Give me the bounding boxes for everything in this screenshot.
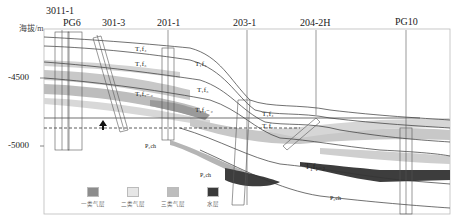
formation-p2ch: P₂ch [145, 143, 156, 149]
well-203-1: 203-1 [233, 17, 256, 28]
formation-f3: T₁f₃ [135, 60, 147, 68]
formation-f4: T₁f₄ [135, 45, 147, 53]
formation-f3-b: T₁f₃ [197, 86, 209, 94]
well-3011-1: 3011-1 [46, 5, 74, 16]
formation-f4-b: T₁f₄ [195, 60, 207, 68]
well-pg10: PG10 [395, 16, 418, 27]
legend-item-class1-gas: 一类气层 [78, 187, 108, 208]
legend-item-class3-gas: 三类气层 [158, 187, 188, 208]
y-tick-5000: -5000 [8, 140, 29, 150]
legend-swatch [87, 187, 99, 197]
legend-swatch [167, 187, 179, 197]
well-pg6: PG6 [63, 17, 81, 28]
formation-f12-c: T₁f₁₋₂ [305, 162, 325, 171]
formation-p2ch-c: P₂ch [330, 195, 341, 201]
legend-swatch [127, 187, 139, 197]
y-tick-4500: -4500 [8, 72, 29, 82]
formation-p2ch-b: P₂ch [200, 172, 211, 178]
well-204-2h: 204-2H [300, 17, 331, 28]
formation-f12: T₁f₁₋₂ [135, 90, 153, 98]
legend-swatch [207, 187, 219, 197]
well-201-1: 201-1 [157, 17, 180, 28]
legend: 一类气层 二类气层 三类气层 水层 [78, 187, 228, 208]
well-301-3: 301-3 [102, 17, 125, 28]
formation-f4-c: T₁f₄ [262, 110, 274, 118]
formation-f3-c: T₁f₃ [262, 122, 274, 130]
arrow-up-icon [99, 120, 107, 130]
legend-item-class2-gas: 二类气层 [118, 187, 148, 208]
y-axis-label: 海拔/m [19, 22, 43, 33]
legend-item-water: 水层 [198, 187, 228, 208]
formation-f12-b: T₁f₁₋₂ [195, 106, 213, 114]
